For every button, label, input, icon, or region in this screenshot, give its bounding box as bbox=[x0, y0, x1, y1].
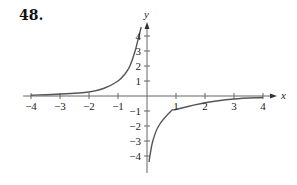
x-tick-label: −2 bbox=[83, 100, 95, 112]
x-axis-label: x bbox=[280, 89, 286, 101]
x-axis-arrow-icon bbox=[270, 94, 277, 99]
x-tick-label: −4 bbox=[25, 100, 37, 112]
x-tick-label: −1 bbox=[112, 100, 124, 112]
x-tick-label: 4 bbox=[260, 100, 266, 112]
y-tick-label: −3 bbox=[129, 135, 141, 147]
x-tick-label: −3 bbox=[54, 100, 66, 112]
y-tick-label: 1 bbox=[136, 75, 142, 87]
y-tick-label: −1 bbox=[129, 105, 141, 117]
axes: xy bbox=[23, 8, 286, 173]
x-tick-label: 1 bbox=[173, 100, 179, 112]
x-tick-label: 3 bbox=[231, 100, 237, 112]
y-axis-label: y bbox=[143, 8, 149, 20]
y-tick-label: −2 bbox=[129, 120, 141, 132]
y-tick-label: 3 bbox=[136, 45, 142, 57]
y-tick-label: 4 bbox=[136, 30, 142, 42]
y-tick-label: −4 bbox=[129, 150, 141, 162]
x-tick-label: 2 bbox=[202, 100, 208, 112]
y-tick-label: 2 bbox=[136, 60, 142, 72]
left-branch-curve bbox=[31, 27, 141, 95]
y-axis-arrow-icon bbox=[145, 22, 150, 29]
function-graph: xy −4−3−2−11234−4−3−2−11234 bbox=[0, 0, 297, 185]
